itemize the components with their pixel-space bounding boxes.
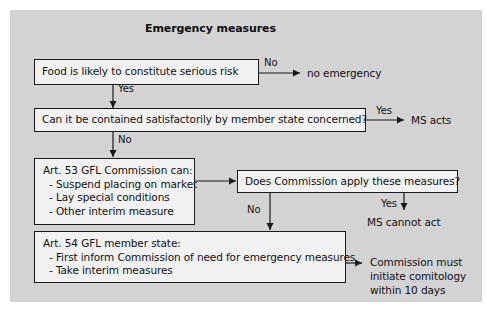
decision-box-risk-text: Food is likely to constitute serious ris… (42, 65, 251, 79)
art53-item-2: - Other interim measure (43, 205, 186, 219)
terminal-comitology-line-1: initiate comitology (370, 269, 466, 283)
edge-label-risk-no: No (264, 56, 277, 69)
terminal-comitology: Commission must initiate comitology with… (370, 255, 466, 297)
decision-box-risk: Food is likely to constitute serious ris… (34, 59, 259, 85)
terminal-comitology-line-0: Commission must (370, 255, 466, 269)
art53-item-1: - Lay special conditions (43, 191, 186, 205)
terminal-comitology-line-2: within 10 days (370, 283, 466, 297)
art53-item-0: - Suspend placing on market (43, 178, 186, 192)
terminal-no-emergency: no emergency (307, 66, 381, 80)
edge-label-risk-yes: Yes (118, 82, 134, 95)
terminal-ms-acts: MS acts (411, 113, 451, 127)
decision-box-commission-text: Does Commission apply these measures? (245, 175, 450, 189)
art54-item-1: - Take interim measures (43, 264, 337, 278)
art54-heading: Art. 54 GFL member state: (43, 237, 337, 251)
decision-box-containment-text: Can it be contained satisfactorily by me… (42, 113, 358, 127)
page-title: Emergency measures (145, 22, 276, 35)
art54-item-0: - First inform Commission of need for em… (43, 251, 337, 265)
process-box-art53: Art. 53 GFL Commission can: - Suspend pl… (34, 158, 195, 225)
terminal-ms-cannot-act: MS cannot act (367, 215, 440, 229)
edge-label-containment-yes: Yes (376, 104, 392, 117)
edge-label-containment-no: No (118, 133, 131, 146)
edge-label-commission-yes: Yes (381, 197, 397, 210)
decision-box-commission: Does Commission apply these measures? (237, 170, 458, 193)
art53-heading: Art. 53 GFL Commission can: (43, 164, 186, 178)
emergency-measures-flowchart: Emergency measures Food is likely to con… (0, 0, 500, 318)
edge-label-commission-no: No (247, 203, 260, 216)
decision-box-containment: Can it be contained satisfactorily by me… (34, 108, 366, 132)
process-box-art54: Art. 54 GFL member state: - First inform… (34, 231, 346, 283)
